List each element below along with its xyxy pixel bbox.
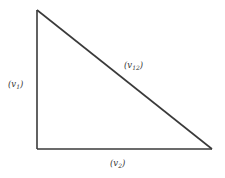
label-v1: (v1) — [8, 79, 23, 90]
edge-v12-hypotenuse — [37, 10, 212, 149]
triangle-diagram: (v1) (v12) (v2) — [0, 0, 225, 178]
label-v2: (v2) — [110, 158, 125, 169]
label-v12: (v12) — [124, 60, 143, 71]
